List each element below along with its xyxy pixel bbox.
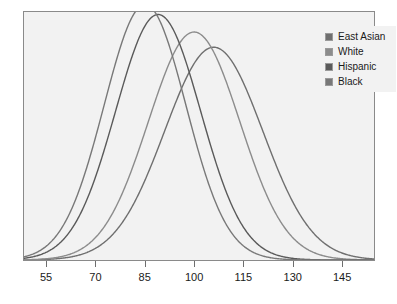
legend-item-white[interactable]: White [325,44,394,59]
x-axis-tick-mark [243,261,244,267]
x-axis-tick-label: 55 [40,271,52,283]
legend-swatch-white [325,48,333,56]
x-axis-tick-label: 145 [333,271,351,283]
plot-panel: East Asian White Hispanic Black [23,11,375,261]
legend: East Asian White Hispanic Black [322,26,396,92]
legend-swatch-hispanic [325,63,333,71]
x-axis-tick-mark [46,261,47,267]
x-axis-tick-mark [95,261,96,267]
x-axis-tick-mark [145,261,146,267]
legend-item-black[interactable]: Black [325,74,394,89]
legend-label-black: Black [338,76,362,87]
x-axis-tick-mark [342,261,343,267]
x-axis-tick-label: 100 [185,271,203,283]
legend-swatch-east-asian [325,33,333,41]
legend-label-east-asian: East Asian [338,31,385,42]
x-axis-tick-label: 85 [139,271,151,283]
legend-label-hispanic: Hispanic [338,61,376,72]
x-axis-tick-mark [293,261,294,267]
x-axis-tick-label: 115 [235,271,253,283]
legend-swatch-black [325,78,333,86]
x-axis-tick-label: 130 [284,271,302,283]
x-axis-tick-label: 70 [89,271,101,283]
chart-screenshot: East Asian White Hispanic Black 55708510… [0,0,397,304]
x-axis: 557085100115130145 [23,261,375,304]
legend-item-east-asian[interactable]: East Asian [325,29,394,44]
legend-item-hispanic[interactable]: Hispanic [325,59,394,74]
legend-label-white: White [338,46,364,57]
x-axis-tick-mark [194,261,195,267]
